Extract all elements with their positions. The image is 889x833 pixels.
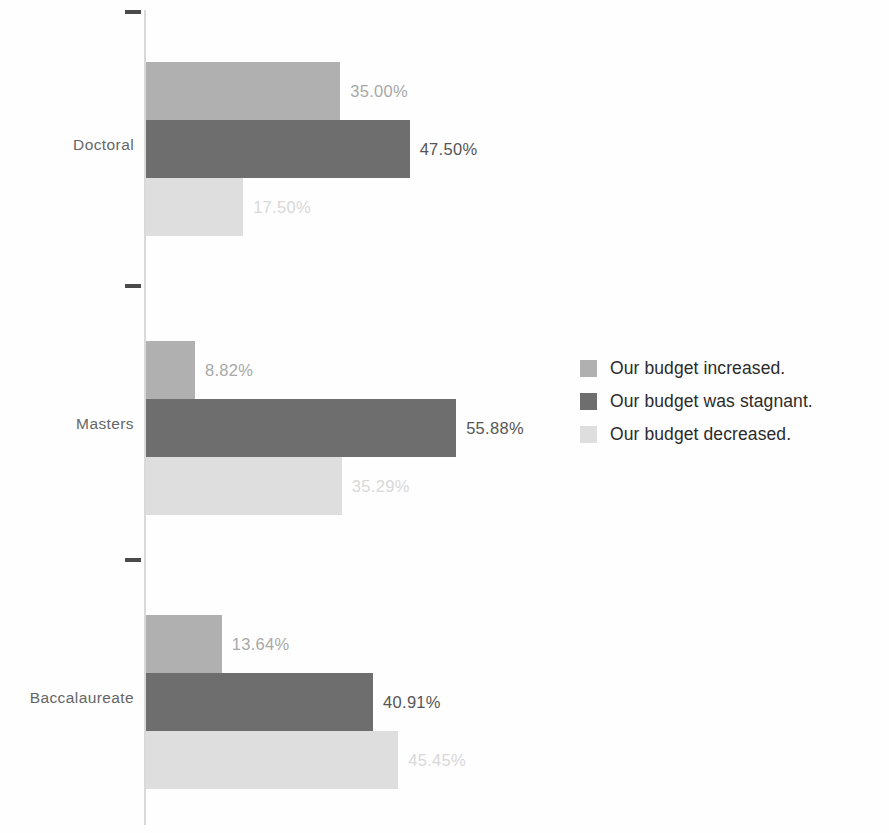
axis-tick-masters (125, 284, 141, 288)
plot-area: Doctoral 35.00% 47.50% 17.50% Masters 8.… (0, 0, 889, 833)
bar-row-decreased: 17.50% (0, 178, 889, 236)
bar-row-stagnant: 47.50% (0, 120, 889, 178)
bar-baccalaureate-increased[interactable] (146, 615, 222, 673)
legend-swatch-increased (580, 360, 597, 377)
bar-baccalaureate-stagnant[interactable] (146, 673, 373, 731)
bar-value-doctoral-stagnant: 47.50% (410, 120, 478, 178)
bar-value-masters-decreased: 35.29% (342, 457, 410, 515)
bar-value-masters-increased: 8.82% (195, 341, 253, 399)
axis-tick-baccalaureate (125, 558, 141, 562)
legend-item-increased[interactable]: Our budget increased. (580, 352, 880, 385)
bar-group-baccalaureate: Baccalaureate 13.64% 40.91% 45.45% (0, 615, 889, 789)
bar-masters-decreased[interactable] (146, 457, 342, 515)
bar-row-decreased: 45.45% (0, 731, 889, 789)
legend: Our budget increased. Our budget was sta… (580, 352, 880, 451)
legend-swatch-decreased (580, 426, 597, 443)
axis-tick-doctoral (125, 10, 141, 14)
bar-value-baccalaureate-decreased: 45.45% (398, 731, 466, 789)
bar-row-stagnant: 40.91% (0, 673, 889, 731)
bar-value-baccalaureate-increased: 13.64% (222, 615, 290, 673)
bar-masters-increased[interactable] (146, 341, 195, 399)
bar-value-masters-stagnant: 55.88% (456, 399, 524, 457)
bar-row-decreased: 35.29% (0, 457, 889, 515)
bar-masters-stagnant[interactable] (146, 399, 456, 457)
bar-group-doctoral: Doctoral 35.00% 47.50% 17.50% (0, 62, 889, 236)
bar-value-doctoral-increased: 35.00% (340, 62, 408, 120)
legend-item-decreased[interactable]: Our budget decreased. (580, 418, 880, 451)
bar-doctoral-stagnant[interactable] (146, 120, 410, 178)
bar-value-baccalaureate-stagnant: 40.91% (373, 673, 441, 731)
bar-row-increased: 35.00% (0, 62, 889, 120)
legend-swatch-stagnant (580, 393, 597, 410)
bar-chart: Doctoral 35.00% 47.50% 17.50% Masters 8.… (0, 0, 889, 833)
bar-doctoral-decreased[interactable] (146, 178, 243, 236)
bar-value-doctoral-decreased: 17.50% (243, 178, 311, 236)
bar-doctoral-increased[interactable] (146, 62, 340, 120)
legend-label-stagnant: Our budget was stagnant. (610, 393, 813, 411)
legend-label-increased: Our budget increased. (610, 360, 785, 378)
bar-row-increased: 13.64% (0, 615, 889, 673)
legend-item-stagnant[interactable]: Our budget was stagnant. (580, 385, 880, 418)
legend-label-decreased: Our budget decreased. (610, 426, 791, 444)
bar-baccalaureate-decreased[interactable] (146, 731, 398, 789)
